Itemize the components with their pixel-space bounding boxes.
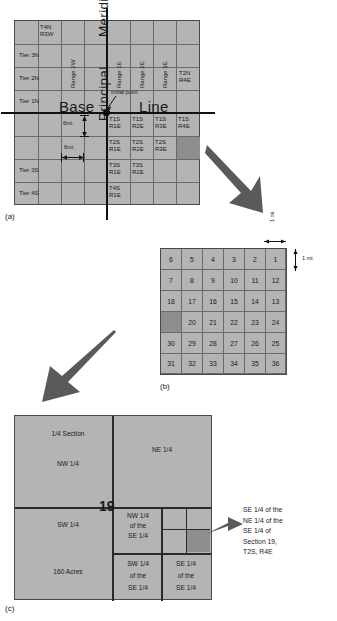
arrow-a-to-b [205, 143, 277, 223]
se-quarter-divider-horizontal [112, 553, 211, 555]
dim-right-bracket-b [292, 249, 299, 271]
range-label-1e: Range 1E [116, 61, 122, 88]
section-cell: 23 [245, 312, 266, 333]
township-cell-t1s-r4e-t: T1S [178, 116, 189, 122]
caption-a: (a) [5, 212, 15, 221]
callout-line-2: NE 1/4 of the [243, 516, 335, 527]
section-cell: 15 [224, 291, 245, 312]
label-sw-of-se-l3: SE 1/4 [116, 584, 160, 593]
section-cell: 27 [224, 333, 245, 354]
caption-b: (b) [160, 382, 170, 391]
section-cell: 31 [161, 354, 182, 374]
section-cell: 13 [266, 291, 286, 312]
section-cell: 17 [182, 291, 203, 312]
township-cell-t1s-r1e-r: R1E [109, 123, 121, 129]
section-cell: 25 [266, 333, 286, 354]
label-sw-of-se-l1: SW 1/4 [116, 560, 160, 569]
township-cell-t1s-r1e-t: T1S [109, 116, 120, 122]
section-cell: 28 [203, 333, 224, 354]
section-cell: 12 [266, 270, 286, 291]
dim-vertical-arrows [80, 115, 89, 138]
township-cell-t4s-r1e-t: T4S [109, 185, 120, 191]
section-cell: 9 [203, 270, 224, 291]
section-cell: 35 [245, 354, 266, 374]
section-cell: 24 [266, 312, 286, 333]
township-label-t2n: T2N [179, 70, 190, 76]
township-cell-t2s-r2e-t: T2S [132, 139, 143, 145]
callout-arrow [206, 513, 244, 535]
township-cell-t3s-r2e-t: T3S [132, 162, 143, 168]
section-cell: 33 [203, 354, 224, 374]
label-ne-quarter: NE 1/4 [127, 446, 197, 455]
township-cell-t1s-r2e-t: T1S [132, 116, 143, 122]
meridian-word: Meridian [97, 0, 111, 37]
township-cell-t3s-r2e-r: R2E [132, 169, 144, 175]
dim-label-1mi-right: 1 mi. [302, 256, 314, 262]
tier-label-1n: Tier 1N [19, 98, 39, 105]
dim-label-6mi-vertical: 6mi. [63, 121, 74, 127]
callout-line-3: SE 1/4 of [243, 526, 335, 537]
tier-label-3n: Tier 3N [19, 52, 39, 59]
township-cell-t1s-r4e-r: R4E [178, 123, 190, 129]
label-nw-of-se-l3: SE 1/4 [116, 532, 160, 541]
dim-top-bracket-b [264, 238, 286, 244]
label-nw-of-se-l2: of the [116, 522, 160, 531]
label-nw-quarter: NW 1/4 [33, 460, 103, 469]
township-cell-t2s-r3e-t: T2S [155, 139, 166, 145]
base-line-word-line: Line [139, 99, 169, 115]
label-160-acres: 160 Acres [29, 568, 107, 577]
initial-point-dot [103, 109, 110, 116]
township-cell-t3s-r1e-r: R1E [109, 169, 121, 175]
section-cell: 32 [182, 354, 203, 374]
callout-text-block: SE 1/4 of the NE 1/4 of the SE 1/4 of Se… [243, 505, 335, 558]
dim-horizontal-arrows [61, 153, 85, 162]
section-cell: 5 [182, 249, 203, 270]
label-nw-of-se-l1: NW 1/4 [116, 512, 160, 521]
township-cell-t1s-r3e-t: T1S [155, 116, 166, 122]
township-cell-t2s-r1e-t: T2S [109, 139, 120, 145]
township-cell-t4s-r1e-r: R1E [109, 192, 121, 198]
callout-line-1: SE 1/4 of the [243, 505, 335, 516]
section-cell: 8 [182, 270, 203, 291]
section-cell: 6 [161, 249, 182, 270]
section-cell: 26 [245, 333, 266, 354]
forty-acre-divider-vertical [186, 508, 187, 553]
township-cell-t3s-r1e-t: T3S [109, 162, 120, 168]
township-cell-t2s-r2e-r: R2E [132, 146, 144, 152]
highlighted-section-19 [161, 312, 182, 333]
label-se-of-se-l2: of the [164, 572, 208, 581]
section-cell: 7 [161, 270, 182, 291]
tier-label-2n: Tier 2N [19, 75, 39, 82]
township-cell-t2s-r3e-r: R3E [155, 146, 167, 152]
section-cell: 14 [245, 291, 266, 312]
township-label-r4e: R4E [179, 77, 191, 83]
panel-c-section-subdivision: 1/4 Section NW 1/4 NE 1/4 SW 1/4 160 Acr… [14, 415, 212, 600]
range-label-2w: Range 2W [70, 60, 76, 88]
section-cell: 18 [161, 291, 182, 312]
section-cell: 29 [182, 333, 203, 354]
label-se-of-se-l3: SE 1/4 [164, 584, 208, 593]
section-cell: 3 [224, 249, 245, 270]
arrow-b-to-c [36, 330, 118, 412]
forty-acre-divider-horizontal [162, 529, 210, 530]
section-cell: 10 [224, 270, 245, 291]
tier-label-3s: Tier 3S [19, 167, 39, 174]
label-se-of-se-l1: SE 1/4 [164, 560, 208, 569]
section-cell: 36 [266, 354, 286, 374]
range-label-2e: Range 2E [139, 61, 145, 88]
section-cell: 2 [245, 249, 266, 270]
section-cell: 34 [224, 354, 245, 374]
dim-label-1mi-top: 1 mi. [270, 210, 276, 222]
section-cell: 11 [245, 270, 266, 291]
dim-label-6mi-horizontal: 6mi. [64, 145, 75, 151]
section-cell: 16 [203, 291, 224, 312]
callout-line-4: Section 19, [243, 537, 335, 548]
panel-a-township-range-grid: Tier 3N Tier 2N Tier 1N Tier 3S Tier 4S … [14, 20, 200, 205]
township-cell-t1s-r3e-r: R3E [155, 123, 167, 129]
label-quarter-section: 1/4 Section [33, 430, 103, 439]
township-label-t4n: T4N [40, 24, 51, 30]
section-cell: 22 [224, 312, 245, 333]
label-sw-quarter: SW 1/4 [33, 521, 103, 530]
panel-b-section-grid: 6 5 4 3 2 1 7 8 9 10 11 12 18 17 16 15 1… [160, 248, 287, 375]
section-number-19: 19 [99, 498, 115, 514]
